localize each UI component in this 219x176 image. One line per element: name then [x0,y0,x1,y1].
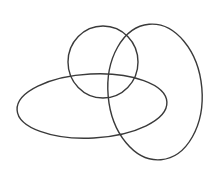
vertical-ellipse-shape [102,20,207,164]
overlapping-shapes-diagram [0,0,219,176]
circle-shape [68,26,138,98]
horizontal-ellipse-shape [15,70,168,142]
